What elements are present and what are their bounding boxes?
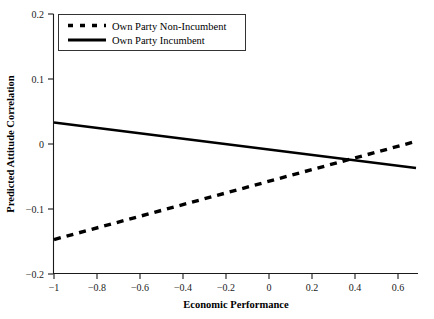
y-tick-label: 0.2 (32, 9, 45, 20)
chart-legend: Own Party Non-Incumbent Own Party Incumb… (59, 15, 246, 51)
x-tick-label: −0.4 (174, 282, 192, 293)
y-axis-title: Predicted Attitude Correlation (5, 75, 16, 212)
x-tick-label: 0.4 (349, 282, 362, 293)
x-tick-label: 0.6 (392, 282, 405, 293)
legend-item-label: Own Party Non-Incumbent (112, 21, 226, 32)
chart-figure: 0.2 0.1 0 −0.1 −0.2 −1 −0.8 −0.6 −0.4 −0… (0, 0, 434, 319)
x-axis-tick-labels: −1 −0.8 −0.6 −0.4 −0.2 0 0.2 0.4 0.6 (49, 282, 405, 293)
x-tick-label: −0.2 (217, 282, 235, 293)
x-tick-label: −0.8 (88, 282, 106, 293)
legend-item-label: Own Party Incumbent (112, 35, 205, 46)
x-tick-label: −1 (49, 282, 60, 293)
y-tick-label: −0.1 (26, 204, 44, 215)
x-axis-title: Economic Performance (183, 299, 289, 310)
y-tick-label: 0.1 (32, 74, 45, 85)
line-chart: 0.2 0.1 0 −0.1 −0.2 −1 −0.8 −0.6 −0.4 −0… (0, 0, 434, 319)
x-tick-label: 0.2 (306, 282, 319, 293)
x-tick-label: −0.6 (131, 282, 149, 293)
x-tick-label: 0 (267, 282, 272, 293)
y-tick-label: 0 (39, 139, 44, 150)
y-tick-label: −0.2 (26, 269, 44, 280)
